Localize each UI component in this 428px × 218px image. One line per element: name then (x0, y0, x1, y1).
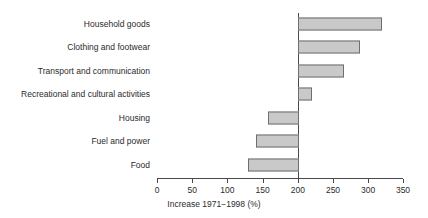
x-tick-label-150: 150 (256, 185, 270, 195)
x-tick-100 (227, 179, 228, 183)
x-tick-label-200: 200 (291, 185, 305, 195)
x-tick-label-50: 50 (187, 185, 196, 195)
x-axis-title: Increase 1971−1998 (%) (0, 199, 428, 209)
bar-food (248, 158, 299, 171)
x-tick-350 (403, 179, 404, 183)
x-tick-label-0: 0 (155, 185, 160, 195)
x-tick-label-250: 250 (326, 185, 340, 195)
plot-area (0, 0, 428, 178)
bar-fuel-and-power (256, 135, 299, 148)
x-tick-200 (298, 179, 299, 183)
x-tick-150 (263, 179, 264, 183)
x-axis-line (157, 178, 403, 179)
x-tick-50 (192, 179, 193, 183)
x-tick-0 (157, 179, 158, 183)
x-tick-300 (368, 179, 369, 183)
x-tick-250 (333, 179, 334, 183)
bar-clothing-and-footwear (298, 41, 360, 54)
bar-household-goods (298, 18, 382, 31)
x-tick-label-300: 300 (361, 185, 375, 195)
bar-recreational-and-cultural-activities (298, 88, 312, 101)
bar-chart: Household goods Clothing and footwear Tr… (0, 0, 428, 218)
bar-transport-and-communication (298, 64, 344, 77)
x-tick-label-100: 100 (220, 185, 234, 195)
x-tick-label-350: 350 (396, 185, 410, 195)
bar-housing (268, 111, 299, 124)
